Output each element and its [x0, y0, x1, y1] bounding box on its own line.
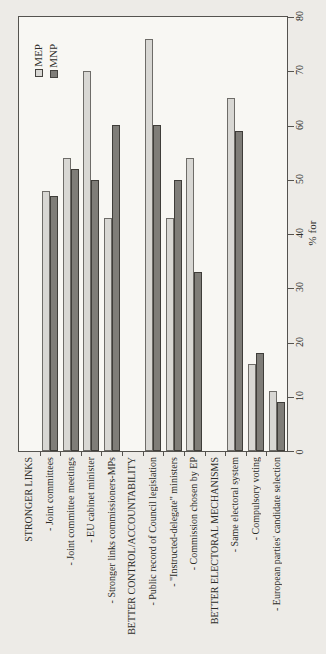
value-axis-tick-label-text: 40 — [295, 228, 305, 238]
bar-mep — [83, 71, 91, 451]
category-label: - Joint committees — [45, 457, 55, 533]
bar-mep — [104, 218, 112, 451]
value-axis-tick-label: 70 — [295, 65, 305, 77]
category-axis-tick — [40, 452, 41, 456]
legend-entry-mnp: MNP — [48, 44, 59, 78]
category-label: - Same electoral system — [230, 457, 240, 554]
category-label-text: BETTER CONTROL/ACCOUNTABILITY — [127, 457, 137, 635]
bar-mnp — [112, 125, 120, 451]
bar-mnp — [153, 125, 161, 451]
value-axis-tick-label: 50 — [295, 174, 305, 186]
bar-mep — [269, 391, 277, 451]
figure: MEPMNP % for STRONGER LINKS- Joint commi… — [0, 0, 326, 654]
category-axis-tick — [60, 452, 61, 456]
category-label-text: BETTER ELECTORAL MECHANISMS — [210, 457, 220, 624]
plot-area — [18, 16, 288, 452]
bar-mep — [186, 158, 194, 451]
bar-mnp — [235, 131, 243, 451]
value-axis-tick-label: 20 — [295, 337, 305, 349]
category-label-text: STRONGER LINKS — [24, 457, 34, 542]
value-axis-tick-label: 40 — [295, 228, 305, 240]
category-axis-tick — [225, 452, 226, 456]
legend-label-mnp: MNP — [48, 44, 59, 68]
legend-label-mep: MEP — [33, 44, 44, 67]
bar-mnp — [256, 353, 264, 451]
value-axis-tick-label-text: 10 — [295, 391, 305, 401]
value-axis-tick-label: 0 — [295, 446, 305, 457]
legend-swatch-mnp — [50, 70, 58, 78]
category-label: - European parties' candidate selection — [272, 457, 282, 613]
category-axis-tick — [246, 452, 247, 456]
category-label: - Joint committee meetings — [66, 457, 76, 568]
bar-mnp — [174, 180, 182, 451]
category-label-text: - Compulsory voting — [251, 457, 261, 540]
bar-mnp — [277, 402, 285, 451]
value-axis-tick-label: 10 — [295, 391, 305, 403]
category-axis-tick — [122, 452, 123, 456]
category-axis-tick — [143, 452, 144, 456]
legend: MEPMNP — [33, 44, 59, 78]
value-axis-tick-label-text: 80 — [295, 11, 305, 21]
bar-mnp — [194, 272, 202, 451]
value-axis-tick-label: 80 — [295, 11, 305, 23]
category-label-text: - Joint committees — [45, 457, 55, 531]
category-axis-tick — [163, 452, 164, 456]
value-axis-tick-label-text: 70 — [295, 65, 305, 75]
bar-mnp — [71, 169, 79, 451]
bar-mep — [248, 364, 256, 451]
category-label: BETTER CONTROL/ACCOUNTABILITY — [127, 457, 137, 637]
category-axis-tick — [266, 452, 267, 456]
bar-mnp — [50, 196, 58, 451]
legend-entry-mep: MEP — [33, 44, 44, 78]
category-axis-tick — [81, 452, 82, 456]
category-axis-tick — [101, 452, 102, 456]
category-label: BETTER ELECTORAL MECHANISMS — [210, 457, 220, 626]
category-label: - Public record of Council legislation — [148, 457, 158, 608]
category-label-text: - Commission chosen by EP — [189, 457, 199, 570]
value-axis-tick-label-text: 0 — [295, 450, 305, 455]
category-label-text: - EU cabinet minister — [86, 457, 96, 543]
category-label-text: - European parties' candidate selection — [272, 457, 282, 611]
category-label: - EU cabinet minister — [86, 457, 96, 545]
category-axis-tick — [184, 452, 185, 456]
value-axis-tick-label-text: 60 — [295, 120, 305, 130]
value-axis-tick-label-text: 50 — [295, 174, 305, 184]
bar-mep — [42, 191, 50, 451]
bar-mep — [166, 218, 174, 451]
value-axis-title: % for — [307, 221, 318, 248]
bar-mep — [227, 98, 235, 451]
category-label: - Compulsory voting — [251, 457, 261, 542]
bar-mep — [63, 158, 71, 451]
category-label-text: - "Instructed-delegate" ministers — [169, 457, 179, 587]
legend-swatch-mep — [35, 69, 43, 77]
value-axis-tick-label-text: 30 — [295, 282, 305, 292]
category-label-text: - Public record of Council legislation — [148, 457, 158, 606]
value-axis-tick-label: 60 — [295, 120, 305, 132]
category-axis-tick — [205, 452, 206, 456]
category-label: - "Instructed-delegate" ministers — [169, 457, 179, 589]
category-label: - Commission chosen by EP — [189, 457, 199, 572]
category-label: - Stronger links commissioners-MPs — [107, 457, 117, 605]
value-axis-title-text: % for — [307, 221, 318, 246]
bar-mep — [145, 39, 153, 451]
category-label-text: - Stronger links commissioners-MPs — [107, 457, 117, 603]
category-label-text: - Joint committee meetings — [66, 457, 76, 566]
value-axis-tick-label-text: 20 — [295, 337, 305, 347]
category-label-text: - Same electoral system — [230, 457, 240, 552]
category-label: STRONGER LINKS — [24, 457, 34, 544]
bar-mnp — [91, 180, 99, 451]
value-axis-tick-label: 30 — [295, 282, 305, 294]
